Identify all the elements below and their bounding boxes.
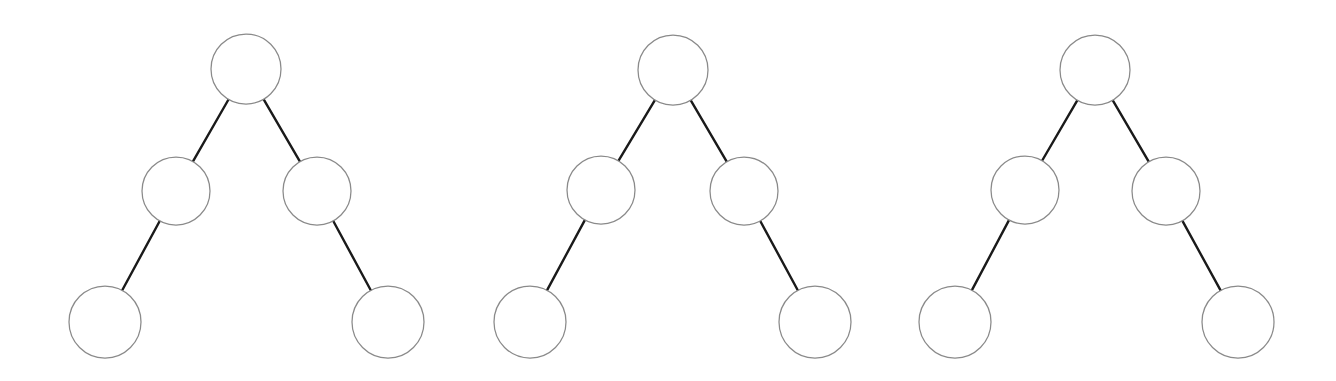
tree-node-left-child [142,157,210,225]
tree-edge [971,219,1009,291]
tree-edge [1042,99,1078,161]
tree-1-nodes [69,34,424,358]
tree-node-root [1060,35,1130,105]
tree-edge [122,220,161,291]
tree-2-nodes [494,35,851,358]
tree-edge [547,219,586,291]
tree-edge [1112,99,1149,162]
tree-node-right-child [710,157,778,225]
tree-node-right-leaf [352,286,424,358]
tree-1 [69,34,424,358]
tree-2 [494,35,851,358]
tree-node-right-leaf [779,286,851,358]
binary-tree-diagram-group [0,0,1336,381]
tree-node-right-child [283,157,351,225]
diagram-canvas [0,0,1336,381]
tree-node-left-leaf [69,286,141,358]
tree-edge [263,98,300,162]
tree-edge [333,220,372,291]
tree-node-left-child [991,156,1059,224]
tree-3-nodes [919,35,1274,358]
tree-node-left-child [567,156,635,224]
tree-node-root [638,35,708,105]
tree-edge [760,220,799,291]
tree-node-right-child [1132,157,1200,225]
tree-node-root [211,34,281,104]
tree-3 [919,35,1274,358]
tree-node-right-leaf [1202,286,1274,358]
tree-node-left-leaf [919,286,991,358]
tree-edge [192,98,229,162]
tree-edge [618,99,656,162]
tree-edge [690,99,727,162]
tree-node-left-leaf [494,286,566,358]
tree-edge [1182,220,1221,291]
